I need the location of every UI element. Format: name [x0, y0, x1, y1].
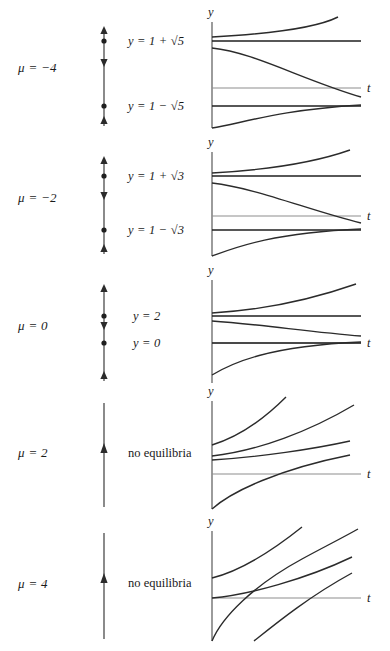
- bifurcation-figure: μ = −4 y = 1 + √5 y = 1 − √5: [0, 0, 390, 651]
- bifurcation-row-mu-4: μ = 4 no equilibria y t: [0, 513, 390, 651]
- mu-label-row-3: μ = 0: [18, 318, 92, 334]
- phase-arrow-up-middle: [100, 573, 107, 583]
- solution-curve-above: [212, 17, 338, 37]
- solution-plot-row-1: y t: [198, 0, 378, 130]
- solution-curve-4: [212, 455, 350, 509]
- equilibrium-dot-upper: [101, 38, 106, 43]
- equilibrium-dot-lower: [101, 103, 106, 108]
- mu-label-row-5: μ = 4: [18, 576, 92, 592]
- phase-arrow-up-top: [100, 156, 107, 164]
- y-axis-label: y: [206, 263, 214, 277]
- y-axis-label: y: [206, 5, 214, 19]
- phase-arrow-up-top: [100, 284, 107, 292]
- y-axis-label: y: [206, 384, 214, 398]
- bifurcation-row-mu-2: μ = 2 no equilibria y t: [0, 385, 390, 513]
- solution-curve-above: [212, 150, 350, 173]
- phase-arrow-up-bottom: [100, 116, 107, 124]
- solution-plot-row-3: y t: [198, 258, 378, 385]
- bifurcation-row-mu-neg-2: μ = −2 y = 1 + √3 y = 1 − √3: [0, 130, 390, 258]
- solution-curve-above: [212, 284, 356, 313]
- phase-arrow-up-bottom: [100, 371, 107, 379]
- equilibrium-label-upper-row-2: y = 1 + √3: [128, 169, 184, 184]
- solution-curve-middle: [212, 321, 361, 336]
- no-equilibria-label-row-4: no equilibria: [128, 446, 192, 461]
- solution-curve-middle: [212, 183, 361, 223]
- bifurcation-row-mu-0: μ = 0 y = 2 y = 0 y: [0, 258, 390, 385]
- phase-arrow-up-middle: [100, 443, 107, 453]
- t-axis-label: t: [367, 81, 371, 95]
- solution-curve-below: [212, 229, 361, 256]
- t-axis-label: t: [367, 209, 371, 223]
- phase-arrow-down-middle: [100, 192, 107, 200]
- solution-curve-4: [254, 573, 352, 641]
- mu-label-row-2: μ = −2: [18, 190, 92, 206]
- solution-plot-row-4: y t: [198, 385, 378, 513]
- phase-arrow-down-middle: [100, 322, 107, 330]
- equilibrium-dot-upper: [101, 173, 106, 178]
- equilibrium-label-lower-row-1: y = 1 − √5: [128, 99, 184, 114]
- equilibrium-label-upper-row-3: y = 2: [133, 309, 160, 324]
- solution-curve-below: [212, 105, 361, 128]
- phase-line-row-2: [88, 130, 128, 258]
- t-axis-label: t: [367, 336, 371, 350]
- y-axis-label: y: [206, 514, 214, 528]
- phase-line-row-1: [88, 0, 128, 130]
- equilibrium-dot-lower: [101, 340, 106, 345]
- solution-curve-2: [212, 405, 354, 456]
- bifurcation-row-mu-neg-4: μ = −4 y = 1 + √5 y = 1 − √5: [0, 0, 390, 130]
- y-axis-label: y: [206, 135, 214, 149]
- solution-curve-3: [212, 441, 350, 460]
- equilibrium-dot-lower: [101, 227, 106, 232]
- phase-line-row-3: [88, 258, 128, 385]
- equilibrium-label-lower-row-2: y = 1 − √3: [128, 223, 184, 238]
- phase-line-row-5: [88, 513, 128, 651]
- equilibrium-dot-upper: [101, 313, 106, 318]
- phase-arrow-down-middle: [100, 59, 107, 67]
- solution-curve-below: [212, 342, 361, 375]
- phase-arrow-up-bottom: [100, 244, 107, 252]
- mu-label-row-1: μ = −4: [18, 60, 92, 76]
- no-equilibria-label-row-5: no equilibria: [128, 576, 192, 591]
- solution-curve-3: [212, 557, 352, 598]
- solution-curve-1: [212, 527, 302, 578]
- solution-plot-row-5: y t: [198, 513, 378, 651]
- phase-arrow-up-top: [100, 26, 107, 34]
- t-axis-label: t: [367, 467, 371, 481]
- solution-curve-middle: [212, 48, 361, 97]
- solution-curve-2: [212, 529, 358, 641]
- equilibrium-label-lower-row-3: y = 0: [133, 336, 160, 351]
- solution-plot-row-2: y t: [198, 130, 378, 258]
- solution-curve-1: [212, 397, 286, 445]
- phase-line-row-4: [88, 385, 128, 513]
- equilibrium-label-upper-row-1: y = 1 + √5: [128, 34, 184, 49]
- t-axis-label: t: [367, 591, 371, 605]
- mu-label-row-4: μ = 2: [18, 445, 92, 461]
